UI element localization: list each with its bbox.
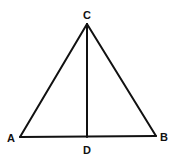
segment-bc: [87, 24, 156, 136]
label-d: D: [83, 144, 91, 156]
triangle-diagram: C A B D: [0, 0, 176, 157]
segment-ca: [20, 24, 87, 137]
label-a: A: [7, 132, 15, 144]
label-b: B: [160, 131, 168, 143]
label-c: C: [83, 9, 91, 21]
diagram-svg: C A B D: [0, 0, 176, 157]
